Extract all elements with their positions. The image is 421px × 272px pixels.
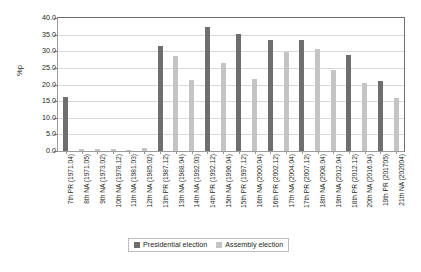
x-tick-label: 13th PR (1987.12): [163, 154, 170, 208]
bar-slot: [200, 18, 216, 151]
bar-slot: [168, 18, 184, 151]
legend-item: Assembly election: [216, 241, 283, 248]
bar: [346, 55, 351, 151]
x-tick-mark: [223, 151, 224, 154]
x-tick-label: 13th NA (1988.04): [179, 154, 186, 208]
x-tick-label: 10th NA (1978.12): [116, 154, 123, 208]
bar-slot: [184, 18, 200, 151]
x-tick-mark: [286, 151, 287, 154]
x-tick-label: 15th NA (1996.04): [226, 154, 233, 208]
legend-swatch-icon: [216, 242, 222, 248]
x-axis: 7th PR (1971.04)8th NA (1971.05)9th NA (…: [58, 154, 404, 220]
y-tick-label: 25.0: [22, 64, 56, 71]
x-tick-label: 12th NA (1985.02): [147, 154, 154, 208]
bar-slot: [310, 18, 326, 151]
x-tick-label: 11th NA (1981.03): [131, 154, 138, 207]
bar: [236, 34, 241, 151]
bar-slot: [215, 18, 231, 151]
x-tick-mark: [207, 151, 208, 154]
bar-slot: [105, 18, 121, 151]
bar-slot: [152, 18, 168, 151]
x-tick-label: 8th NA (1971.05): [84, 154, 91, 204]
legend-swatch-icon: [134, 242, 140, 248]
bar-slot: [247, 18, 263, 151]
x-tick-mark: [144, 151, 145, 154]
x-tick-label: 9th NA (1973.02): [100, 154, 107, 204]
bar-slot: [89, 18, 105, 151]
bar: [394, 98, 399, 151]
bar: [315, 49, 320, 151]
y-tick-label: 5.0: [22, 130, 56, 137]
x-tick-label: 19th PR (201705): [383, 154, 390, 206]
x-tick-mark: [160, 151, 161, 154]
bar: [252, 79, 257, 151]
x-tick-label: 16th PR (2002.12): [273, 154, 280, 208]
chart-root: %p 40.035.030.025.020.015.010.05.00.0 7t…: [0, 0, 421, 272]
chart-legend: Presidential electionAssembly election: [128, 238, 289, 252]
x-tick-mark: [176, 151, 177, 154]
y-tick-label: 15.0: [22, 97, 56, 104]
x-tick-mark: [396, 151, 397, 154]
x-tick-label: 17th PR (2007.12): [304, 154, 311, 208]
x-tick-label: 7th PR (1971.04): [68, 154, 75, 204]
bar: [173, 56, 178, 151]
bar: [158, 46, 163, 151]
bar-slot: [278, 18, 294, 151]
x-tick-label: 16th NA (2000.04): [257, 154, 264, 208]
bar: [284, 52, 289, 151]
y-tick-label: 10.0: [22, 114, 56, 121]
x-tick-mark: [97, 151, 98, 154]
bar-slot: [121, 18, 137, 151]
x-tick-label: 18th PR (2012.12): [352, 154, 359, 208]
bar-slot: [388, 18, 404, 151]
bar: [221, 63, 226, 151]
bar-slot: [373, 18, 389, 151]
y-tick-label: 30.0: [22, 47, 56, 54]
bar: [63, 97, 68, 151]
bar-slot: [294, 18, 310, 151]
x-tick-mark: [270, 151, 271, 154]
x-tick-mark: [333, 151, 334, 154]
bar-slot: [325, 18, 341, 151]
bar-slot: [341, 18, 357, 151]
bar-slot: [231, 18, 247, 151]
legend-item: Presidential election: [134, 241, 207, 248]
bar-group: [58, 18, 404, 151]
y-tick-label: 35.0: [22, 31, 56, 38]
bar: [378, 81, 383, 151]
y-tick-label: 20.0: [22, 81, 56, 88]
x-tick-mark: [113, 151, 114, 154]
x-tick-label: 14th PR (1992.12): [210, 154, 217, 208]
x-tick-mark: [380, 151, 381, 154]
x-tick-label: 21th NA (202004): [399, 154, 406, 206]
bar-slot: [74, 18, 90, 151]
bar: [205, 27, 210, 151]
y-tick-label: 0.0: [22, 147, 56, 154]
legend-label: Assembly election: [225, 241, 283, 248]
bar-slot: [137, 18, 153, 151]
x-tick-label: 17th NA (2004.04): [289, 154, 296, 208]
x-tick-label: 20th NA (2016.04): [367, 154, 374, 208]
x-tick-mark: [349, 151, 350, 154]
bar-slot: [58, 18, 74, 151]
bar: [189, 80, 194, 151]
legend-label: Presidential election: [143, 241, 207, 248]
bar: [299, 40, 304, 151]
y-tick-label: 40.0: [22, 14, 56, 21]
x-tick-label: 18th NA (2008.04): [320, 154, 327, 208]
bar: [362, 83, 367, 151]
x-tick-label: 19th NA (2012.04): [336, 154, 343, 208]
bar: [331, 70, 336, 151]
x-tick-label: 14th NA (1992.03): [194, 154, 201, 208]
bar: [268, 40, 273, 151]
bar-slot: [357, 18, 373, 151]
x-tick-label: 15th PR (1997.12): [241, 154, 248, 208]
bar-slot: [262, 18, 278, 151]
